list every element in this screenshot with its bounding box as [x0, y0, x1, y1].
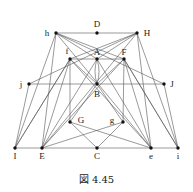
edge-F-g [123, 59, 124, 122]
edge-A-E [42, 59, 97, 148]
edge-f-E [42, 59, 70, 148]
node-label-g: g [110, 115, 115, 125]
node-label-h: h [45, 28, 50, 38]
edge-A-B-arc [97, 59, 99, 84]
node-D [95, 31, 98, 34]
node-label-J: J [170, 79, 174, 89]
node-i [176, 146, 179, 149]
edge-H-e [137, 33, 151, 148]
node-f [68, 57, 71, 60]
node-F [122, 57, 125, 60]
node-label-B: B [94, 89, 100, 99]
edge-f-B [70, 59, 97, 84]
node-label-G: G [78, 115, 85, 125]
node-label-e: e [149, 151, 153, 161]
edge-F-B [97, 59, 124, 84]
edge-j-I [15, 84, 29, 148]
graph-svg: DhHfAFjBJGgIECei [0, 0, 193, 192]
edge-F-e [124, 59, 151, 148]
edge-I-f [15, 59, 70, 148]
node-label-A: A [94, 47, 101, 57]
node-label-j: j [19, 79, 23, 89]
node-E [40, 146, 43, 149]
node-label-D: D [94, 19, 101, 29]
graph-figure: DhHfAFjBJGgIECei 図 4.45 [0, 0, 193, 192]
node-h [54, 31, 57, 34]
edge-h-J [56, 33, 164, 84]
node-e [149, 146, 152, 149]
node-C [95, 146, 98, 149]
node-label-f: f [66, 46, 69, 56]
node-label-i: i [177, 151, 180, 161]
node-B [95, 82, 98, 85]
node-G [68, 120, 71, 123]
node-j [27, 82, 30, 85]
node-g [121, 120, 124, 123]
node-label-F: F [121, 47, 126, 57]
node-label-I: I [14, 151, 17, 161]
edge-G-C [70, 122, 97, 148]
figure-caption: 図 4.45 [0, 171, 193, 186]
edge-h-E [42, 33, 56, 148]
node-label-H: H [144, 28, 151, 38]
edge-h-I [15, 33, 56, 148]
node-label-C: C [94, 151, 100, 161]
edge-H-j [29, 33, 137, 84]
node-J [162, 82, 165, 85]
node-H [135, 31, 138, 34]
edge-J-i [164, 84, 178, 148]
node-I [13, 146, 16, 149]
node-A [95, 57, 98, 60]
node-label-E: E [39, 151, 45, 161]
